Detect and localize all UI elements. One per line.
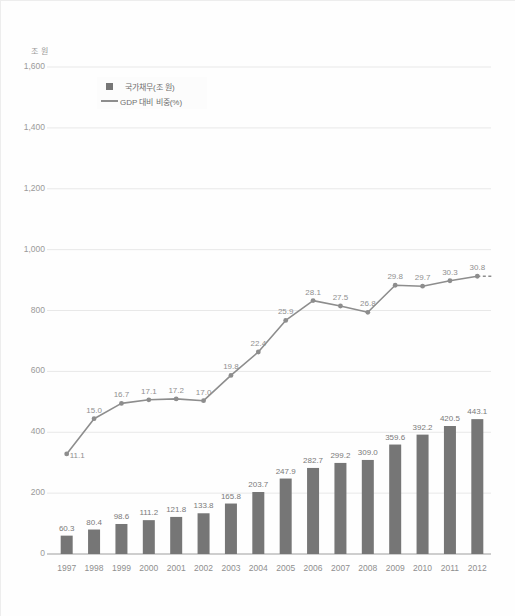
- x-axis-tick-label: 1999: [108, 563, 135, 573]
- line-value-label: 30.8: [460, 263, 494, 272]
- x-axis-tick-label: 2004: [245, 563, 272, 573]
- line-value-label: 17.0: [187, 388, 221, 397]
- bar-value-label: 443.1: [457, 407, 497, 416]
- line-value-label: 26.8: [351, 299, 385, 308]
- y-axis-tick-label: 0: [11, 548, 45, 558]
- x-axis-tick-label: 2005: [272, 563, 299, 573]
- line-value-label: 15.0: [77, 406, 111, 415]
- chart-legend: 국가채무(조 원) GDP 대비 비중(%): [97, 77, 207, 109]
- y-axis-tick-label: 400: [11, 426, 45, 436]
- x-axis-tick-label: 2001: [163, 563, 190, 573]
- y-axis-tick-label: 1,600: [11, 61, 45, 71]
- bar-value-label: 203.7: [238, 480, 278, 489]
- x-axis-tick-label: 2008: [354, 563, 381, 573]
- y-axis-tick-label: 200: [11, 487, 45, 497]
- legend-square-marker-icon: [106, 83, 113, 90]
- x-axis-tick-label: 2002: [190, 563, 217, 573]
- bar-value-label: 359.6: [375, 433, 415, 442]
- x-axis-tick-label: 2003: [217, 563, 244, 573]
- x-axis-tick-label: 2006: [299, 563, 326, 573]
- x-axis-tick-label: 2007: [327, 563, 354, 573]
- y-axis-tick-label: 1,200: [11, 183, 45, 193]
- line-value-label: 11.1: [70, 451, 104, 460]
- legend-label-debt: 국가채무(조 원): [125, 81, 175, 92]
- chart-figure: 조 원 국가채무(조 원) GDP 대비 비중(%) 0200400600800…: [0, 0, 515, 616]
- bar-value-label: 392.2: [403, 423, 443, 432]
- bar-value-label: 165.8: [211, 492, 251, 501]
- line-value-label: 22.4: [241, 339, 275, 348]
- y-axis-tick-label: 1,400: [11, 122, 45, 132]
- x-axis-tick-label: 2010: [409, 563, 436, 573]
- line-value-label: 19.8: [214, 362, 248, 371]
- legend-item-gdp-ratio: GDP 대비 비중(%): [97, 94, 182, 108]
- line-value-label: 25.9: [269, 307, 303, 316]
- x-axis-tick-label: 2011: [436, 563, 463, 573]
- y-axis-tick-label: 1,000: [11, 244, 45, 254]
- x-axis-tick-label: 2012: [464, 563, 491, 573]
- legend-label-gdp-ratio: GDP 대비 비중(%): [120, 96, 182, 107]
- legend-line-marker-icon: [101, 100, 118, 102]
- bar-value-label: 309.0: [348, 448, 388, 457]
- legend-item-debt: 국가채무(조 원): [97, 79, 175, 93]
- x-axis-tick-label: 2009: [382, 563, 409, 573]
- x-axis-tick-label: 1997: [53, 563, 80, 573]
- x-axis-tick-label: 2000: [135, 563, 162, 573]
- y-axis-tick-label: 800: [11, 305, 45, 315]
- bar-value-label: 133.8: [184, 501, 224, 510]
- bar-value-label: 247.9: [266, 467, 306, 476]
- y-axis-tick-label: 600: [11, 365, 45, 375]
- x-axis-tick-label: 1998: [80, 563, 107, 573]
